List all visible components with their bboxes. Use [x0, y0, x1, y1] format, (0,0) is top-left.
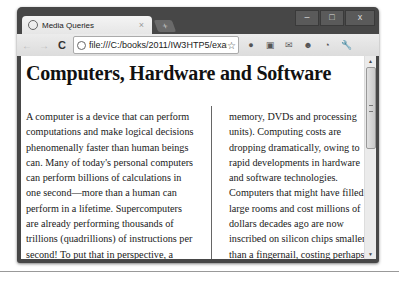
- url-text[interactable]: file:///C:/books/2011/IW3HTP5/exan: [89, 40, 227, 50]
- address-bar[interactable]: file:///C:/books/2011/IW3HTP5/exan ☆: [73, 36, 239, 54]
- scroll-down-arrow-icon[interactable]: ▼: [365, 249, 376, 259]
- vertical-scrollbar[interactable]: ▲ ▼: [364, 56, 376, 259]
- scroll-up-arrow-icon[interactable]: ▲: [365, 56, 376, 66]
- close-tab-icon[interactable]: ×: [139, 20, 144, 30]
- scrollbar-thumb[interactable]: [366, 67, 376, 149]
- globe-icon: [28, 20, 38, 30]
- back-button[interactable]: ←: [20, 40, 34, 51]
- wrench-icon[interactable]: 🔧: [339, 39, 353, 51]
- browser-window: – □ x Media Queries × + ← → C file:///C:…: [17, 7, 379, 263]
- column-2: memory, DVDs and processing units). Comp…: [229, 109, 364, 259]
- column-1: A computer is a device that can perform …: [26, 109, 194, 259]
- reload-button[interactable]: C: [55, 39, 69, 51]
- page-icon: [77, 41, 86, 50]
- page-content: Computers, Hardware and Software A compu…: [21, 56, 364, 259]
- close-window-button[interactable]: x: [345, 10, 375, 26]
- translate-icon[interactable]: ▣: [263, 39, 277, 51]
- mail-icon[interactable]: ✉: [282, 39, 296, 51]
- page-heading: Computers, Hardware and Software: [26, 62, 331, 85]
- new-tab-button[interactable]: +: [154, 20, 176, 32]
- column-rule: [211, 106, 212, 259]
- page-menu-icon[interactable]: ◔: [320, 39, 334, 51]
- window-controls: – □ x: [295, 10, 375, 26]
- tab-title: Media Queries: [42, 21, 139, 30]
- minimize-button[interactable]: –: [295, 10, 319, 26]
- maximize-button[interactable]: □: [320, 10, 344, 26]
- extension-icon-4[interactable]: ☻: [301, 39, 315, 51]
- toolbar: ← → C file:///C:/books/2011/IW3HTP5/exan…: [17, 34, 379, 56]
- grip-icon: [369, 105, 373, 112]
- forward-button[interactable]: →: [37, 40, 51, 51]
- bookmark-star-icon[interactable]: ☆: [227, 40, 236, 51]
- divider: [0, 271, 399, 272]
- tab-media-queries[interactable]: Media Queries ×: [22, 16, 152, 34]
- extension-icon-1[interactable]: ●: [244, 39, 258, 51]
